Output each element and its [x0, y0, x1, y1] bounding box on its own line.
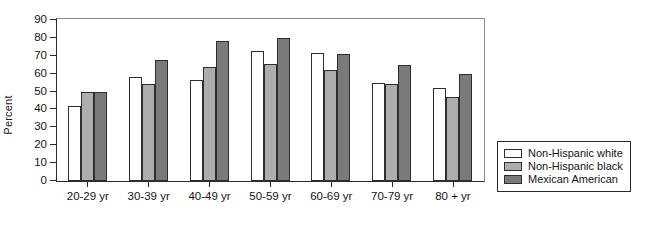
bar-group — [311, 19, 350, 181]
bar — [311, 53, 324, 181]
bar — [277, 38, 290, 181]
y-axis-tick — [50, 91, 57, 92]
y-axis-tick — [50, 37, 57, 38]
legend-item: Non-Hispanic black — [504, 160, 623, 173]
legend-label: Non-Hispanic white — [528, 148, 623, 159]
x-axis-tick — [392, 181, 393, 187]
legend-label: Mexican American — [528, 174, 618, 185]
bar — [216, 41, 229, 181]
y-axis-tick — [50, 19, 57, 20]
y-axis-tick-label: 40 — [34, 102, 47, 114]
bar — [446, 97, 459, 181]
x-axis-tick-label: 40-49 yr — [188, 190, 230, 202]
x-axis-tick — [453, 181, 454, 187]
x-axis-tick — [209, 181, 210, 187]
bar — [385, 84, 398, 181]
y-axis-tick-label: 80 — [34, 31, 47, 43]
x-axis-tick-label: 30-39 yr — [128, 190, 170, 202]
y-axis-tick — [50, 108, 57, 109]
bar — [251, 51, 264, 181]
bar-group — [68, 19, 107, 181]
x-axis-tick-label: 60-69 yr — [310, 190, 352, 202]
bar — [264, 64, 277, 181]
y-axis-tick-label: 0 — [41, 174, 47, 186]
y-axis-tick — [50, 126, 57, 127]
chart-figure: Percent 0102030405060708090 20-29 yr30-3… — [0, 0, 649, 225]
bar-group — [251, 19, 290, 181]
bar-group — [129, 19, 168, 181]
bar — [372, 83, 385, 181]
y-axis-tick — [50, 73, 57, 74]
y-axis-title: Percent — [2, 60, 16, 170]
x-axis-tick-label: 20-29 yr — [67, 190, 109, 202]
y-axis-tick-label: 50 — [34, 85, 47, 97]
bar — [459, 74, 472, 181]
x-axis-tick — [331, 181, 332, 187]
y-axis-tick-label: 70 — [34, 49, 47, 61]
bar — [433, 88, 446, 181]
legend-swatch — [504, 175, 522, 184]
x-axis-tick-label: 80 + yr — [435, 190, 470, 202]
bar — [94, 92, 107, 181]
plot-inner: 0102030405060708090 — [57, 19, 484, 181]
bar — [155, 60, 168, 181]
bar-group — [372, 19, 411, 181]
y-axis-tick — [50, 180, 57, 181]
bar-group — [433, 19, 472, 181]
y-axis-tick — [50, 144, 57, 145]
bar-group — [190, 19, 229, 181]
bar — [324, 70, 337, 181]
x-axis-tick-label: 70-79 yr — [371, 190, 413, 202]
y-axis-tick-label: 60 — [34, 67, 47, 79]
legend-swatch — [504, 162, 522, 171]
y-axis-tick — [50, 55, 57, 56]
legend-item: Non-Hispanic white — [504, 147, 623, 160]
x-axis-tick — [87, 181, 88, 187]
bar — [142, 84, 155, 181]
x-axis-tick — [270, 181, 271, 187]
y-axis-tick-label: 10 — [34, 156, 47, 168]
legend-label: Non-Hispanic black — [528, 161, 623, 172]
bar — [398, 65, 411, 181]
bar — [129, 77, 142, 181]
bar — [190, 80, 203, 181]
bar — [81, 92, 94, 181]
x-axis-tick — [148, 181, 149, 187]
y-axis-tick-label: 30 — [34, 120, 47, 132]
legend-swatch — [504, 149, 522, 158]
plot-area: 0102030405060708090 — [56, 18, 485, 182]
chart-legend: Non-Hispanic whiteNon-Hispanic blackMexi… — [497, 141, 631, 192]
y-axis-tick — [50, 162, 57, 163]
y-axis-tick-label: 20 — [34, 138, 47, 150]
y-axis-tick-label: 90 — [34, 13, 47, 25]
x-axis-tick-label: 50-59 yr — [249, 190, 291, 202]
bar — [68, 106, 81, 181]
legend-item: Mexican American — [504, 173, 623, 186]
bar — [337, 54, 350, 181]
bar — [203, 67, 216, 181]
